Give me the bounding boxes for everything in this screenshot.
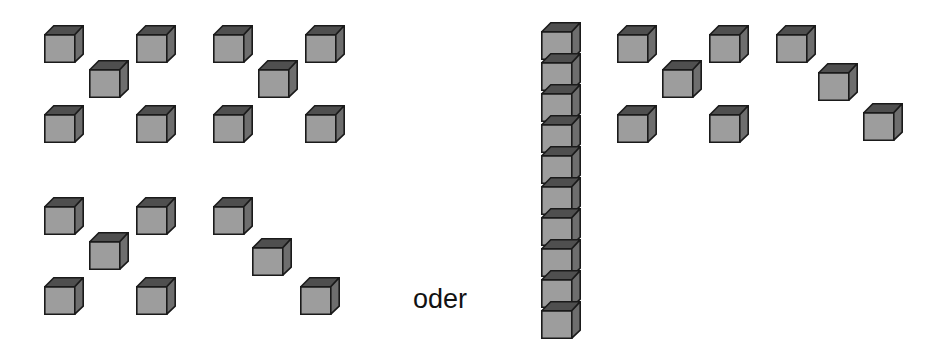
cube [776,25,816,63]
cube [89,60,129,98]
cube [136,197,176,235]
cube [818,63,858,101]
cube [89,232,129,270]
oder-caption-label: oder [413,286,467,313]
cube [44,277,84,315]
cube [136,105,176,143]
cube [617,105,657,143]
cube [213,197,253,235]
cube [305,105,345,143]
cube [44,197,84,235]
cube [136,25,176,63]
cube [662,60,702,98]
cube [44,25,84,63]
cube [305,25,345,63]
cube-illustration-canvas: oder [0,0,946,342]
cube [258,60,298,98]
cube [709,25,749,63]
cube [541,301,581,339]
cube [709,105,749,143]
cube [617,25,657,63]
cube [213,25,253,63]
cube [863,103,903,141]
cube [213,105,253,143]
cube [252,238,292,276]
cube [44,105,84,143]
cube [300,277,340,315]
cube [136,277,176,315]
